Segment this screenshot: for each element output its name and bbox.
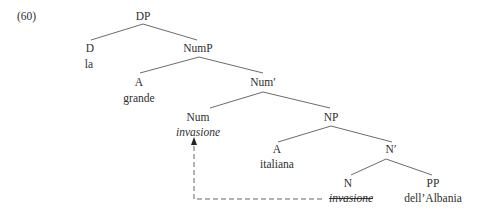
edge-numbar-np bbox=[263, 92, 330, 108]
node-d: D bbox=[86, 41, 94, 55]
edge-np-nbar bbox=[331, 126, 392, 142]
node-a-italiana: A bbox=[273, 142, 281, 156]
node-dp: DP bbox=[136, 9, 151, 23]
edge-np-a bbox=[278, 126, 331, 142]
movement-arrow-line bbox=[194, 145, 322, 199]
node-num: Num bbox=[187, 110, 210, 124]
node-num-bar: Num′ bbox=[250, 75, 276, 89]
edge-dp-nump bbox=[143, 24, 197, 40]
edge-nbar-pp bbox=[386, 159, 432, 175]
node-a-grande: A bbox=[135, 75, 143, 89]
edge-nump-numbar bbox=[199, 57, 263, 73]
edge-dp-d bbox=[91, 24, 143, 40]
node-n: N bbox=[344, 176, 352, 190]
word-invasione-moved: invasione bbox=[176, 125, 220, 139]
tree-edges bbox=[0, 0, 486, 211]
edge-nbar-n bbox=[351, 159, 386, 175]
node-nump: NumP bbox=[183, 41, 212, 55]
syntax-tree-diagram: (60) DP D la NumP A grande Nu bbox=[0, 0, 486, 211]
word-italiana: italiana bbox=[260, 157, 294, 171]
word-invasione-trace: invasione bbox=[329, 191, 373, 205]
word-dell-albania: dell’Albania bbox=[404, 191, 461, 205]
word-la: la bbox=[85, 57, 93, 71]
edge-nump-a bbox=[140, 57, 199, 73]
node-pp: PP bbox=[427, 176, 440, 190]
edge-numbar-num bbox=[210, 92, 263, 108]
node-n-bar: N′ bbox=[386, 142, 397, 156]
node-np: NP bbox=[324, 110, 339, 124]
word-grande: grande bbox=[123, 91, 154, 105]
